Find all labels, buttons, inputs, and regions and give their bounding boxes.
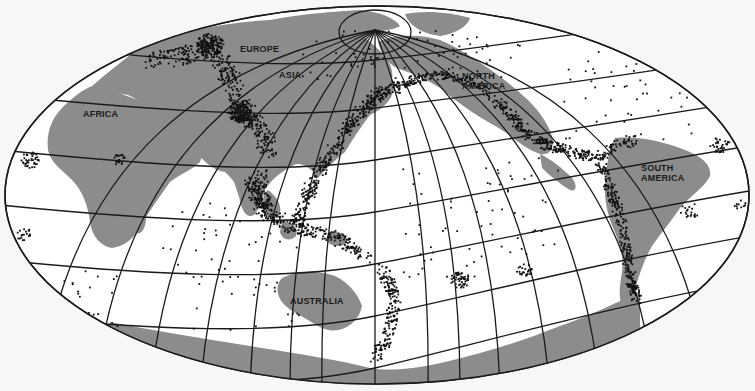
world-seismicity-map — [0, 0, 755, 391]
